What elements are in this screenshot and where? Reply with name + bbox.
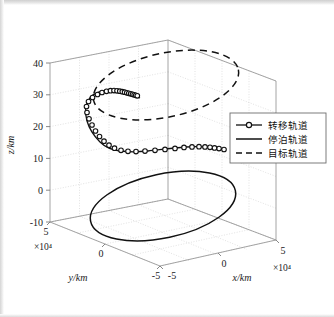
y-axis-label: y/km (68, 272, 88, 283)
z-tick-label: 30 (33, 89, 43, 100)
left-wall-grid (50, 40, 168, 222)
plot-svg: 40 30 20 10 0 -10 z/km 5 0 -5 ×10⁴ y/km (0, 0, 334, 317)
y-tick-label: 5 (44, 226, 49, 237)
series-parking-orbit (84, 159, 242, 252)
x-tick-label: -5 (168, 270, 176, 281)
floor-grid (50, 199, 276, 266)
series-target-orbit (87, 38, 245, 131)
x-tick-label: 5 (281, 245, 286, 256)
transfer-orbit-markers (84, 88, 226, 154)
x-tick-marks (160, 240, 279, 269)
x-tick-label: 0 (222, 258, 227, 269)
y-axis-exponent: ×10⁴ (34, 242, 53, 252)
x-axis-exponent: ×10⁴ (273, 263, 292, 273)
legend[interactable]: 转移轨道 停泊轨道 目标轨道 (230, 113, 326, 163)
z-axis-label: z/km (5, 136, 16, 155)
figure-canvas: 40 30 20 10 0 -10 z/km 5 0 -5 ×10⁴ y/km (0, 0, 334, 317)
y-tick-label: -5 (152, 270, 160, 281)
z-tick-label: -10 (30, 217, 43, 228)
legend-label: 停泊轨道 (268, 134, 308, 145)
series-transfer-orbit (84, 88, 226, 154)
y-tick-label: 0 (99, 248, 104, 259)
z-tick-marks (46, 63, 50, 222)
z-tick-label: 0 (38, 185, 43, 196)
x-axis-label: x/km (232, 272, 252, 283)
legend-sample-marker (246, 122, 251, 127)
z-tick-label: 40 (33, 58, 43, 69)
y-tick-marks (47, 222, 160, 269)
z-tick-label: 10 (33, 153, 43, 164)
z-axis: 40 30 20 10 0 -10 z/km (5, 58, 50, 228)
z-tick-label: 20 (33, 121, 43, 132)
legend-label: 目标轨道 (268, 148, 308, 159)
legend-label: 转移轨道 (268, 120, 308, 131)
